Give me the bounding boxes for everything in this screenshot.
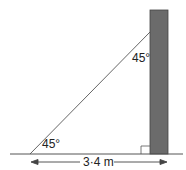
base-length-label: 3·4 m <box>83 156 114 168</box>
arrowhead-right-icon <box>160 160 167 165</box>
arrowhead-left-icon <box>31 160 38 165</box>
wall <box>150 10 168 154</box>
angle-bottom-label: 45° <box>42 138 60 150</box>
angle-top-label: 45° <box>132 52 150 64</box>
right-angle-marker <box>141 146 150 154</box>
diagram-canvas <box>0 0 186 170</box>
